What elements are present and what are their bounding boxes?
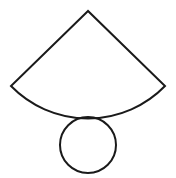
circular-sector-shape <box>11 11 165 118</box>
circle-shape <box>60 117 116 173</box>
diagram-canvas <box>0 0 176 178</box>
